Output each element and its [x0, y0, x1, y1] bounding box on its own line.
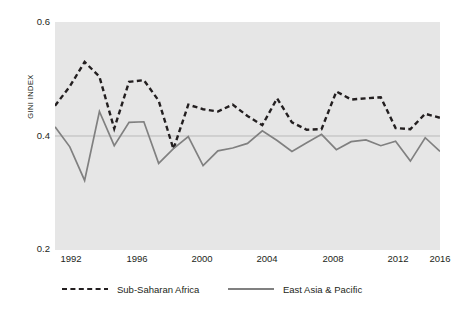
- y-tick-label-0: 0.6: [14, 16, 50, 27]
- x-axis-tick-labels: 1992 1996 2000 2004 2008 2012 2016: [0, 253, 461, 269]
- legend-entry-east-asia-pacific: East Asia & Pacific: [228, 281, 362, 297]
- x-tick-label-1992: 1992: [49, 253, 93, 264]
- x-tick-label-1996: 1996: [115, 253, 159, 264]
- x-tick-label-2012: 2012: [376, 253, 420, 264]
- series-lines: [55, 62, 440, 181]
- legend-label-sub-saharan-africa: Sub-Saharan Africa: [117, 284, 199, 295]
- chart-legend: Sub-Saharan Africa East Asia & Pacific: [0, 281, 461, 303]
- plot-area: [55, 22, 440, 250]
- legend-entry-sub-saharan-africa: Sub-Saharan Africa: [62, 281, 199, 297]
- x-tick-label-2008: 2008: [311, 253, 355, 264]
- x-tick-label-2000: 2000: [180, 253, 224, 264]
- y-tick-label-1: 0.4: [14, 130, 50, 141]
- x-tick-label-2016: 2016: [418, 253, 461, 264]
- gini-index-line-chart: GINI INDEX 0.6 0.4 0.2 1992 1996 2000 20…: [0, 0, 461, 312]
- solid-line-swatch: [228, 284, 274, 294]
- x-tick-label-2004: 2004: [245, 253, 289, 264]
- legend-label-east-asia-pacific: East Asia & Pacific: [283, 284, 362, 295]
- chart-canvas: [55, 22, 440, 250]
- dashed-line-swatch: [62, 284, 108, 294]
